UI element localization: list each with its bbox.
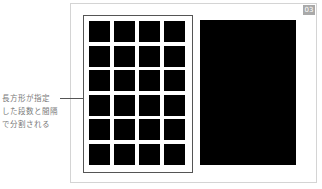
grid-cell: [89, 70, 110, 91]
grid-cell: [139, 21, 160, 42]
grid-cell: [164, 21, 185, 42]
grid-cell: [89, 119, 110, 140]
grid-cell: [114, 70, 135, 91]
annotation-line-3: で分割される: [2, 118, 62, 131]
annotation-label: 長方形が指定 した段数と間隔 で分割される: [2, 92, 62, 131]
annotation-line-2: した段数と間隔: [2, 105, 62, 118]
grid-cell: [164, 144, 185, 165]
grid-cell: [89, 144, 110, 165]
grid-cell: [89, 21, 110, 42]
grid-cell: [164, 70, 185, 91]
figure-number-badge: 03: [303, 5, 315, 15]
grid-cell: [114, 95, 135, 116]
grid-cell: [164, 119, 185, 140]
original-rectangle: [200, 20, 296, 165]
grid-cell: [89, 46, 110, 67]
grid-cell: [139, 95, 160, 116]
grid-cell: [139, 46, 160, 67]
grid-cell: [139, 70, 160, 91]
grid-cell: [139, 144, 160, 165]
grid-cell: [114, 119, 135, 140]
divided-rectangle-grid: [83, 15, 193, 173]
grid-cell: [89, 95, 110, 116]
grid-cell: [114, 46, 135, 67]
grid-cell: [114, 144, 135, 165]
annotation-leader-line: [60, 98, 84, 99]
grid-cell: [164, 95, 185, 116]
grid-cell: [164, 46, 185, 67]
grid-cell: [114, 21, 135, 42]
annotation-line-1: 長方形が指定: [2, 92, 62, 105]
grid-cell: [139, 119, 160, 140]
